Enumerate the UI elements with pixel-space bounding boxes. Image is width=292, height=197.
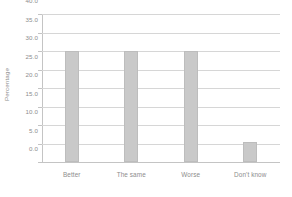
y-tick-mark (38, 33, 42, 34)
y-axis-title-label: Percentage (4, 67, 11, 100)
y-tick-label: 15.0 (26, 89, 38, 96)
y-tick-mark (38, 162, 42, 163)
y-tick-label: 0.0 (29, 145, 38, 152)
bar (65, 51, 79, 162)
y-tick-label: 25.0 (26, 52, 38, 59)
gridline (42, 162, 280, 163)
y-tick-mark (38, 14, 42, 15)
y-tick-mark (38, 144, 42, 145)
y-tick-mark (38, 70, 42, 71)
x-axis-tick-labels: BetterThe sameWorseDon't know (42, 166, 280, 186)
y-tick-label: 30.0 (26, 34, 38, 41)
bar (124, 51, 138, 162)
y-tick-mark (38, 88, 42, 89)
y-tick-label: 40.0 (26, 0, 38, 4)
x-tick-label: Worse (181, 171, 200, 178)
bars-layer (42, 14, 280, 162)
bar (243, 142, 257, 162)
x-tick-label: Don't know (234, 171, 266, 178)
y-tick-label: 10.0 (26, 108, 38, 115)
y-tick-mark (38, 107, 42, 108)
plot-area (42, 14, 280, 162)
x-tick-label: The same (117, 171, 146, 178)
y-tick-label: 35.0 (26, 15, 38, 22)
x-tick-label: Better (63, 171, 81, 178)
y-axis-title: Percentage (0, 0, 14, 168)
bar-chart: Percentage 0.05.010.015.020.025.030.035.… (0, 0, 292, 197)
y-tick-mark (38, 125, 42, 126)
y-tick-label: 20.0 (26, 71, 38, 78)
y-tick-mark (38, 51, 42, 52)
y-tick-label: 5.0 (29, 126, 38, 133)
y-axis-tick-labels: 0.05.010.015.020.025.030.035.040.0 (14, 0, 41, 168)
bar (184, 51, 198, 162)
